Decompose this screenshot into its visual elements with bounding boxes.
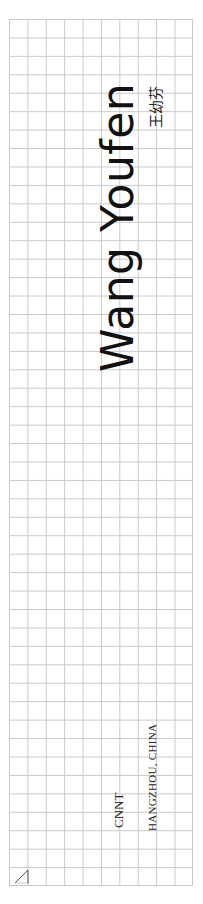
spine-title: Wang Youfen bbox=[92, 83, 143, 372]
publisher-label: CNNT bbox=[111, 793, 127, 828]
chinese-name: 王幼芬 bbox=[145, 86, 165, 128]
arrow-up-right-icon bbox=[14, 868, 30, 884]
location-label: HANGZHOU, CHINA bbox=[146, 724, 158, 831]
